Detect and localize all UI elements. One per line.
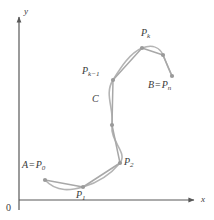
point-pk-1 (111, 78, 115, 82)
label-point-pn: B=Pn (148, 80, 171, 92)
label-p1-subscript: 1 (82, 194, 86, 202)
label-curve-c: C (92, 94, 99, 104)
origin-label: 0 (6, 203, 11, 213)
point-pk (140, 46, 144, 50)
label-point-p1: P1 (76, 190, 86, 202)
label-p2-subscript: 2 (130, 161, 134, 169)
partition-points (43, 46, 174, 189)
curve-c (45, 46, 172, 189)
label-pn-equals: = (154, 79, 162, 90)
inscribed-polygon (45, 48, 172, 187)
label-pk-1-subscript: k−1 (88, 70, 99, 78)
point-mid2 (161, 53, 165, 57)
label-p0-subscript: 0 (42, 164, 46, 172)
label-point-p0: A=P0 (22, 160, 45, 172)
figure-canvas: y x 0 A=P0 P1 P2 Pk−1 Pk B=Pn C (0, 0, 214, 220)
chord-polyline (45, 48, 172, 187)
label-p0-equals: = (28, 159, 36, 170)
point-pn (170, 74, 174, 78)
point-mid1 (110, 123, 114, 127)
curve-c-group (45, 46, 172, 189)
label-point-p2: P2 (124, 157, 134, 169)
y-axis-label: y (24, 7, 28, 16)
point-p2 (118, 161, 122, 165)
point-p0 (43, 178, 47, 182)
label-point-pk-minus-1: Pk−1 (82, 66, 99, 78)
x-axis-label: x (201, 195, 205, 204)
label-pn-subscript: n (168, 84, 172, 92)
label-point-pk: Pk (141, 28, 150, 40)
label-pk-subscript: k (147, 32, 150, 40)
figure-graphics (0, 0, 214, 220)
